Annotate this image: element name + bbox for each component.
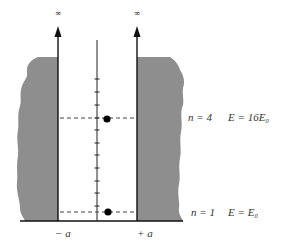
level-n4-energy-label: E = 16E₀ <box>228 111 269 123</box>
level-n1-n-label: n = 1 <box>191 206 215 218</box>
plus-a-text: + a <box>137 227 153 239</box>
left-arrow-icon <box>55 26 62 37</box>
particle-dot-n4 <box>103 115 110 122</box>
level-n4-n-label: n = 4 <box>188 111 212 123</box>
level-n1-energy-label: E = E₀ <box>228 206 258 218</box>
minus-a-text: − a <box>55 227 71 239</box>
axis-label-plus-a: + a <box>137 227 153 239</box>
infinity-right-symbol: ∞ <box>134 9 141 18</box>
infinity-left-symbol: ∞ <box>55 9 62 18</box>
n1-energy-text: E = E₀ <box>228 206 258 218</box>
n1-label-text: n = 1 <box>191 206 215 218</box>
right-wall-shape <box>137 57 184 221</box>
particle-dot-n1 <box>104 208 111 215</box>
left-wall-shape <box>17 57 58 221</box>
right-arrow-icon <box>134 26 141 37</box>
axis-label-minus-a: − a <box>55 227 71 239</box>
n4-label-text: n = 4 <box>188 111 212 123</box>
n4-energy-text: E = 16E₀ <box>228 111 269 123</box>
